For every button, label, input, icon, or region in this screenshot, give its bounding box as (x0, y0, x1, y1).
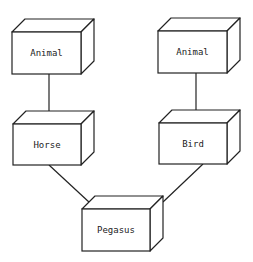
node-bird[interactable]: Bird (159, 110, 240, 164)
nodes: AnimalAnimalHorseBirdPegasus (12, 18, 240, 251)
node-top-face (12, 19, 94, 32)
edge-horse-to-pegasus (49, 165, 90, 203)
node-label: Animal (176, 47, 209, 57)
node-pegasus[interactable]: Pegasus (82, 196, 163, 251)
node-horse[interactable]: Horse (13, 111, 94, 165)
node-label: Animal (30, 48, 63, 58)
node-animal-left[interactable]: Animal (12, 19, 94, 74)
node-top-face (82, 196, 163, 209)
node-animal-right[interactable]: Animal (158, 18, 240, 73)
diagram-canvas: AnimalAnimalHorseBirdPegasus (0, 0, 253, 262)
node-label: Horse (33, 140, 60, 150)
node-top-face (158, 18, 240, 31)
edge-bird-to-pegasus (163, 164, 203, 202)
node-label: Pegasus (97, 225, 135, 235)
node-top-face (13, 111, 94, 124)
node-top-face (159, 110, 240, 123)
node-label: Bird (182, 139, 204, 149)
